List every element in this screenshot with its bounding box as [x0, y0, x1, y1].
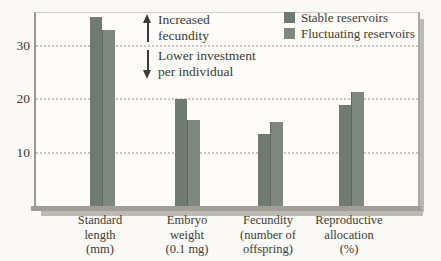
- down-arrow-icon: [143, 50, 152, 79]
- down-arrow-head: [143, 70, 151, 79]
- stable-reservoirs-swatch-icon: [284, 12, 295, 23]
- down-arrow-shaft: [147, 50, 149, 71]
- y-tick-label-10: 10: [6, 146, 30, 160]
- bar: [258, 134, 270, 207]
- up-arrow-icon: [143, 14, 152, 42]
- y-tick-label-30: 30: [6, 39, 30, 53]
- bar: [351, 92, 364, 207]
- figure-canvas: 102030 Increased fecundity Lower investm…: [0, 0, 441, 261]
- bar: [339, 105, 351, 207]
- legend-item-stable: Stable reservoirs: [284, 11, 415, 24]
- legend-item-fluctuating: Fluctuating reservoirs: [284, 27, 415, 40]
- bar-group-embryo-weight: [175, 99, 200, 207]
- bar-group-fecundity: [258, 122, 283, 208]
- x-axis-line: [31, 206, 422, 211]
- bar: [102, 30, 115, 207]
- legend-label-fluctuating: Fluctuating reservoirs: [301, 27, 415, 40]
- bar: [270, 122, 283, 208]
- legend-label-stable: Stable reservoirs: [301, 11, 388, 24]
- bar: [187, 120, 200, 207]
- x-label-reproductive-allocation: Reproductive allocation (%): [297, 213, 401, 257]
- y-tick-label-20: 20: [6, 92, 30, 106]
- up-arrow-shaft: [147, 21, 149, 42]
- annotation-increased-fecundity: Increased fecundity: [158, 12, 210, 43]
- annotation-lower-investment: Lower investment per individual: [158, 48, 256, 79]
- bar: [90, 17, 102, 207]
- bar: [175, 99, 187, 207]
- bar-group-reproductive-allocation: [339, 92, 364, 207]
- fluctuating-reservoirs-swatch-icon: [284, 28, 295, 39]
- legend: Stable reservoirs Fluctuating reservoirs: [284, 11, 415, 43]
- y-axis-ticks: 102030: [6, 12, 30, 206]
- bar-group-standard-length: [90, 17, 115, 207]
